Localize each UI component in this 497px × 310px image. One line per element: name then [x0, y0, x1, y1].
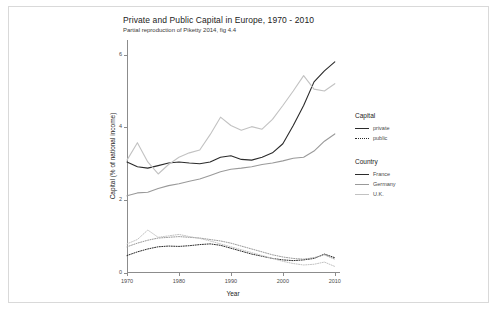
x-tick	[335, 273, 336, 276]
legend-capital-title: Capital	[355, 112, 390, 119]
chart-figure: Private and Public Capital in Europe, 19…	[0, 0, 497, 310]
x-tick-label: 1990	[225, 278, 237, 284]
line-uk-icon	[355, 190, 369, 198]
legend-item-germany[interactable]: Germany	[355, 179, 396, 189]
legend-country: Country France Germany U.K.	[355, 158, 396, 199]
line-germany-icon	[355, 180, 369, 188]
plot-area	[127, 40, 340, 273]
legend-item-private-label: private	[373, 125, 390, 131]
y-tick-label: 0	[119, 269, 122, 275]
x-tick	[127, 273, 128, 276]
x-tick	[231, 273, 232, 276]
legend-item-private[interactable]: private	[355, 123, 390, 133]
line-france-icon	[355, 170, 369, 178]
legend-item-public[interactable]: public	[355, 133, 390, 143]
legend-item-france[interactable]: France	[355, 169, 396, 179]
line-solid-icon	[355, 124, 369, 132]
x-axis-title: Year	[226, 290, 239, 297]
legend-capital: Capital private public	[355, 112, 390, 143]
legend-item-uk[interactable]: U.K.	[355, 189, 396, 199]
y-tick-label: 6	[119, 51, 122, 57]
series-line	[127, 76, 335, 174]
legend-item-france-label: France	[373, 171, 390, 177]
x-tick-label: 1980	[173, 278, 185, 284]
x-tick-label: 2010	[329, 278, 341, 284]
x-tick-label: 2000	[277, 278, 289, 284]
chart-subtitle: Partial reproduction of Piketty 2014, fi…	[123, 27, 236, 33]
x-tick	[283, 273, 284, 276]
series-lines	[127, 40, 340, 273]
y-axis-title: Capital (% of national income)	[109, 113, 116, 200]
legend-country-title: Country	[355, 158, 396, 165]
legend-item-germany-label: Germany	[373, 181, 396, 187]
series-line	[127, 244, 335, 261]
x-tick-label: 1970	[121, 278, 133, 284]
series-line	[127, 134, 335, 196]
y-tick-label: 4	[119, 123, 122, 129]
legend-item-public-label: public	[373, 135, 387, 141]
chart-title: Private and Public Capital in Europe, 19…	[123, 15, 314, 25]
legend-item-uk-label: U.K.	[373, 191, 384, 197]
line-dotted-icon	[355, 134, 369, 142]
series-line	[127, 62, 335, 168]
x-tick	[179, 273, 180, 276]
y-tick-label: 2	[119, 196, 122, 202]
